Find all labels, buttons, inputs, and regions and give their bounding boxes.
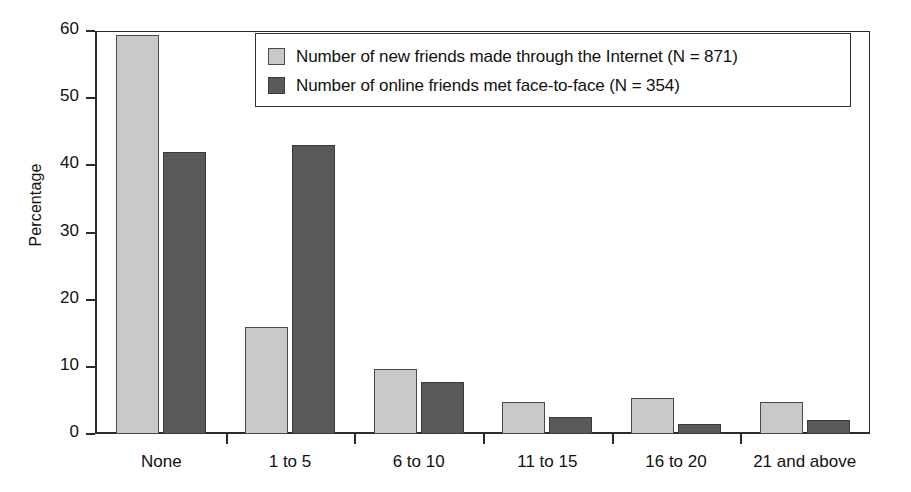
bar-none-series-0 bbox=[116, 35, 159, 434]
legend: Number of new friends made through the I… bbox=[255, 33, 851, 107]
bar-21-and-above-series-1 bbox=[807, 420, 850, 434]
y-tick-mark bbox=[86, 433, 95, 435]
legend-swatch-icon-series-1 bbox=[268, 77, 285, 94]
x-axis-label-16-to-20: 16 to 20 bbox=[612, 452, 741, 472]
y-tick-label: 20 bbox=[60, 288, 79, 308]
bar-chart: Percentage 0102030405060 None1 to 56 to … bbox=[0, 0, 911, 492]
legend-swatch-icon-series-0 bbox=[268, 48, 285, 65]
y-tick-label: 0 bbox=[70, 422, 79, 442]
y-tick-label: 50 bbox=[60, 86, 79, 106]
y-tick-label: 30 bbox=[60, 221, 79, 241]
y-tick-label: 40 bbox=[60, 153, 79, 173]
legend-entry-1: Number of online friends met face-to-fac… bbox=[268, 71, 838, 100]
x-axis-label-none: None bbox=[97, 452, 226, 472]
x-axis-label-6-to-10: 6 to 10 bbox=[354, 452, 483, 472]
bar-16-to-20-series-0 bbox=[631, 398, 674, 434]
y-tick-mark bbox=[86, 299, 95, 301]
y-tick-mark bbox=[86, 97, 95, 99]
bar-11-to-15-series-1 bbox=[549, 417, 592, 434]
bar-6-to-10-series-0 bbox=[374, 369, 417, 434]
bar-21-and-above-series-0 bbox=[760, 402, 803, 434]
legend-label-series-1: Number of online friends met face-to-fac… bbox=[296, 76, 680, 96]
legend-label-series-0: Number of new friends made through the I… bbox=[296, 47, 738, 67]
bar-16-to-20-series-1 bbox=[678, 424, 721, 434]
y-tick-mark bbox=[86, 366, 95, 368]
x-tick-mark bbox=[354, 434, 356, 444]
x-tick-mark bbox=[226, 434, 228, 444]
y-tick-label: 10 bbox=[60, 355, 79, 375]
bar-1-to-5-series-1 bbox=[292, 145, 335, 434]
x-tick-mark bbox=[612, 434, 614, 444]
y-tick-mark bbox=[86, 164, 95, 166]
x-axis-label-21-and-above: 21 and above bbox=[740, 452, 869, 472]
bar-6-to-10-series-1 bbox=[421, 382, 464, 434]
x-tick-mark bbox=[483, 434, 485, 444]
bar-none-series-1 bbox=[163, 152, 206, 434]
bar-1-to-5-series-0 bbox=[245, 327, 288, 434]
legend-entry-0: Number of new friends made through the I… bbox=[268, 42, 838, 71]
x-tick-mark bbox=[740, 434, 742, 444]
y-tick-mark bbox=[86, 232, 95, 234]
y-axis-title: Percentage bbox=[27, 125, 45, 285]
x-axis-label-1-to-5: 1 to 5 bbox=[226, 452, 355, 472]
y-tick-label: 60 bbox=[60, 19, 79, 39]
x-axis-label-11-to-15: 11 to 15 bbox=[483, 452, 612, 472]
y-tick-mark bbox=[86, 30, 95, 32]
bar-11-to-15-series-0 bbox=[502, 402, 545, 434]
